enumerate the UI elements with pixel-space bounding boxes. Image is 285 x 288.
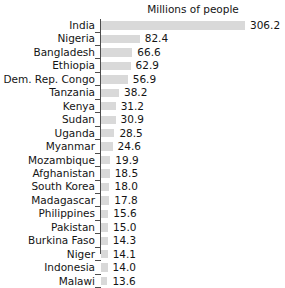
bar	[101, 48, 132, 56]
bar	[101, 89, 119, 97]
category-label: Afghanistan	[0, 167, 95, 180]
bar-row: Kenya31.2	[0, 100, 285, 113]
bar-value-label: 18.0	[114, 180, 137, 193]
bar-row: India306.2	[0, 19, 285, 32]
category-label: South Korea	[0, 180, 95, 193]
bar-value-label: 31.2	[121, 100, 144, 113]
bar	[101, 237, 108, 245]
category-label: Dem. Rep. Congo	[0, 73, 95, 86]
bar	[101, 250, 108, 258]
bar-row: Philippines15.6	[0, 207, 285, 220]
bar-value-label: 28.5	[119, 127, 142, 140]
bar	[101, 62, 131, 70]
bar-value-label: 18.5	[115, 167, 138, 180]
bar-row: Uganda28.5	[0, 127, 285, 140]
category-label: Nigeria	[0, 32, 95, 45]
bar-value-label: 24.6	[118, 140, 141, 153]
bar-row: Mozambique19.9	[0, 154, 285, 167]
bar	[101, 169, 110, 177]
bar-row: Myanmar24.6	[0, 140, 285, 153]
bar-value-label: 82.4	[145, 32, 168, 45]
bar-value-label: 15.0	[113, 221, 136, 234]
bar-value-label: 14.1	[113, 248, 136, 261]
bar	[101, 263, 108, 271]
bar-value-label: 19.9	[115, 154, 138, 167]
category-label: Malawi	[0, 275, 95, 288]
plot-area: India306.2Nigeria82.4Bangladesh66.6Ethio…	[0, 19, 285, 257]
bar	[101, 116, 116, 124]
category-label: Niger	[0, 248, 95, 261]
bar	[101, 142, 113, 150]
bar-row: Dem. Rep. Congo56.9	[0, 73, 285, 86]
bar-value-label: 66.6	[137, 46, 160, 59]
bar-row: Sudan30.9	[0, 113, 285, 126]
bar-value-label: 30.9	[121, 113, 144, 126]
bar-value-label: 13.6	[112, 275, 135, 288]
bar	[101, 75, 128, 83]
bar-value-label: 38.2	[124, 86, 147, 99]
category-label: Madagascar	[0, 194, 95, 207]
bar-value-label: 14.0	[113, 261, 136, 274]
bar-row: South Korea18.0	[0, 180, 285, 193]
bar	[101, 102, 116, 110]
bar-row: Tanzania38.2	[0, 86, 285, 99]
category-label: Myanmar	[0, 140, 95, 153]
category-label: Kenya	[0, 100, 95, 113]
bar	[101, 210, 108, 218]
category-label: Pakistan	[0, 221, 95, 234]
bar	[101, 223, 108, 231]
category-label: Ethiopia	[0, 59, 95, 72]
bar-value-label: 306.2	[250, 19, 280, 32]
bar	[101, 21, 245, 29]
category-label: Burkina Faso	[0, 234, 95, 247]
bar-value-label: 62.9	[136, 59, 159, 72]
bar-row: Pakistan15.0	[0, 221, 285, 234]
bar-row: Burkina Faso14.3	[0, 234, 285, 247]
category-label: Bangladesh	[0, 46, 95, 59]
category-label: Philippines	[0, 207, 95, 220]
bar-value-label: 56.9	[133, 73, 156, 86]
bar-value-label: 14.3	[113, 234, 136, 247]
category-label: India	[0, 19, 95, 32]
bar-row: Nigeria82.4	[0, 32, 285, 45]
bar-row: Indonesia14.0	[0, 261, 285, 274]
bar	[101, 156, 110, 164]
bar	[101, 183, 109, 191]
category-label: Tanzania	[0, 86, 95, 99]
bar-row: Afghanistan18.5	[0, 167, 285, 180]
category-label: Indonesia	[0, 261, 95, 274]
bar-row: Niger14.1	[0, 248, 285, 261]
chart-title: Millions of people	[101, 3, 285, 16]
bar-row: Ethiopia62.9	[0, 59, 285, 72]
bar-row: Madagascar17.8	[0, 194, 285, 207]
category-label: Uganda	[0, 127, 95, 140]
bar	[101, 129, 114, 137]
bar-row: Bangladesh66.6	[0, 46, 285, 59]
bar-row: Malawi13.6	[0, 275, 285, 288]
category-label: Mozambique	[0, 154, 95, 167]
bar-value-label: 15.6	[113, 207, 136, 220]
bar-value-label: 17.8	[114, 194, 137, 207]
bar	[101, 196, 109, 204]
bar	[101, 35, 140, 43]
category-label: Sudan	[0, 113, 95, 126]
bar	[101, 277, 107, 285]
